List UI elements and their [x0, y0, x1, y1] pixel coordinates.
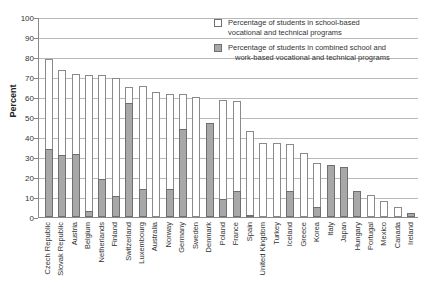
bar-slot[interactable] — [190, 18, 203, 217]
y-axis-tick-label: 100 — [10, 14, 34, 23]
bar-slot[interactable] — [69, 18, 82, 217]
legend-label-school-based: Percentage of students in school-based v… — [228, 18, 420, 38]
bar-segment-combined — [112, 196, 120, 217]
bar-segment-school-based — [273, 143, 281, 217]
x-axis-label: Switzerland — [125, 222, 133, 261]
stacked-bar[interactable] — [139, 86, 147, 217]
stacked-bar[interactable] — [407, 213, 415, 217]
y-axis-tick-label: 90 — [10, 34, 34, 43]
stacked-bar[interactable] — [313, 163, 321, 217]
stacked-bar[interactable] — [152, 92, 160, 217]
chart-container: Percent 0102030405060708090100 Czech Rep… — [0, 0, 422, 288]
stacked-bar[interactable] — [179, 94, 187, 217]
legend-label-line1: Percentage of students in school-based — [228, 18, 360, 27]
stacked-bar[interactable] — [58, 70, 66, 217]
x-axis-label-slot: Mexico — [378, 220, 391, 288]
bar-slot[interactable] — [149, 18, 162, 217]
bar-slot[interactable] — [82, 18, 95, 217]
x-axis-label: Norway — [165, 222, 173, 247]
x-axis-label-slot: Czech Republic — [41, 220, 54, 288]
x-axis-label: Spain — [246, 222, 254, 241]
bar-segment-school-based — [139, 86, 147, 189]
x-axis-label: Luxembourg — [138, 222, 146, 264]
x-axis-label: Belgium — [84, 222, 92, 249]
bar-slot[interactable] — [136, 18, 149, 217]
bar-slot[interactable] — [109, 18, 122, 217]
stacked-bar[interactable] — [340, 167, 348, 217]
stacked-bar[interactable] — [300, 153, 308, 217]
x-axis-label-slot: Turkey — [270, 220, 283, 288]
stacked-bar[interactable] — [380, 201, 388, 217]
bar-segment-combined — [166, 189, 174, 217]
bar-segment-school-based — [125, 87, 133, 103]
x-axis-label: Poland — [219, 222, 227, 245]
stacked-bar[interactable] — [327, 165, 335, 217]
legend-item-combined: Percentage of students in combined schoo… — [214, 43, 420, 63]
bar-slot[interactable] — [123, 18, 136, 217]
bar-segment-combined — [206, 123, 214, 217]
bar-segment-combined — [246, 215, 254, 217]
bar-segment-school-based — [246, 131, 254, 215]
x-axis-label-slot: Ireland — [405, 220, 418, 288]
stacked-bar[interactable] — [72, 74, 80, 217]
x-axis-label-slot: Portugal — [364, 220, 377, 288]
stacked-bar[interactable] — [273, 143, 281, 217]
bar-slot[interactable] — [42, 18, 55, 217]
stacked-bar[interactable] — [45, 59, 53, 217]
stacked-bar[interactable] — [367, 195, 375, 217]
y-axis-tick-mark — [34, 58, 38, 59]
y-axis-tick-label: 40 — [10, 134, 34, 143]
bar-segment-school-based — [192, 97, 200, 217]
bar-segment-school-based — [233, 101, 241, 191]
stacked-bar[interactable] — [246, 131, 254, 217]
bar-slot[interactable] — [176, 18, 189, 217]
y-axis-tick-label: 80 — [10, 54, 34, 63]
stacked-bar[interactable] — [233, 101, 241, 217]
stacked-bar[interactable] — [125, 87, 133, 217]
y-axis-tick-mark — [34, 78, 38, 79]
bar-segment-combined — [313, 207, 321, 217]
stacked-bar[interactable] — [112, 78, 120, 217]
x-axis-label: United Kingdom — [259, 222, 267, 275]
bar-slot[interactable] — [163, 18, 176, 217]
stacked-bar[interactable] — [286, 144, 294, 217]
x-axis-label-slot: Belgium — [81, 220, 94, 288]
x-axis-label: Mexico — [380, 222, 388, 246]
x-axis-label-slot: Spain — [243, 220, 256, 288]
x-axis-label: Japan — [340, 222, 348, 242]
bar-segment-combined — [139, 189, 147, 217]
bar-segment-school-based — [367, 195, 375, 217]
stacked-bar[interactable] — [192, 97, 200, 217]
bar-slot[interactable] — [55, 18, 68, 217]
x-axis-label-slot: Poland — [216, 220, 229, 288]
y-axis-tick-label: 10 — [10, 194, 34, 203]
x-axis-label: Greece — [300, 222, 308, 247]
bar-segment-combined — [98, 179, 106, 217]
bar-segment-school-based — [313, 163, 321, 207]
x-axis-label: Ireland — [407, 222, 415, 245]
stacked-bar[interactable] — [166, 94, 174, 217]
stacked-bar[interactable] — [98, 75, 106, 217]
stacked-bar[interactable] — [394, 207, 402, 217]
x-axis-label: Iceland — [286, 222, 294, 246]
stacked-bar[interactable] — [353, 191, 361, 217]
x-axis-label-slot: Japan — [337, 220, 350, 288]
stacked-bar[interactable] — [219, 100, 227, 217]
y-axis-tick-mark — [34, 178, 38, 179]
stacked-bar[interactable] — [85, 75, 93, 217]
y-axis-tick-mark — [34, 18, 38, 19]
stacked-bar[interactable] — [259, 143, 267, 217]
y-axis-tick-label: 50 — [10, 114, 34, 123]
bar-segment-combined — [233, 191, 241, 217]
x-axis-label: Italy — [327, 222, 335, 236]
bar-slot[interactable] — [96, 18, 109, 217]
x-axis-label: Portugal — [367, 222, 375, 250]
y-axis-tick-mark — [34, 118, 38, 119]
bar-segment-school-based — [98, 75, 106, 179]
x-axis-label-slot: Hungary — [351, 220, 364, 288]
x-axis-label: Turkey — [273, 222, 281, 245]
bar-segment-combined — [353, 191, 361, 217]
stacked-bar[interactable] — [206, 123, 214, 217]
x-axis-label-slot: Slovak Republic — [54, 220, 67, 288]
bar-segment-school-based — [259, 143, 267, 217]
